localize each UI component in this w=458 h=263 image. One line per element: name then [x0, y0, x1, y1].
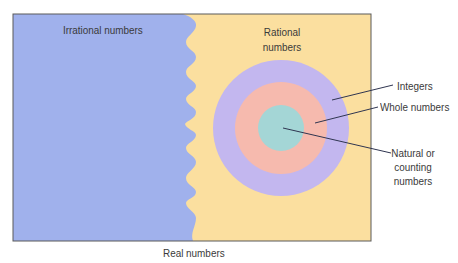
rational-label-line2: numbers [251, 40, 314, 54]
diagram-canvas [0, 0, 458, 263]
real-numbers-caption: Real numbers [163, 246, 225, 260]
natural-numbers-label: Natural or counting numbers [382, 146, 445, 188]
irrational-numbers-label: Irrational numbers [63, 23, 143, 37]
irrational-region [13, 14, 196, 241]
real-numbers-diagram: Irrational numbers Rational numbers Inte… [0, 0, 458, 263]
rational-label-line1: Rational [251, 25, 314, 39]
natural-label-line2: counting [382, 160, 445, 174]
natural-label-line1: Natural or [382, 146, 445, 160]
whole-numbers-label: Whole numbers [380, 100, 449, 114]
natural-label-line3: numbers [382, 174, 445, 188]
natural-numbers-circle [258, 105, 304, 151]
integers-label: Integers [397, 79, 433, 93]
rational-numbers-label: Rational numbers [251, 25, 314, 54]
